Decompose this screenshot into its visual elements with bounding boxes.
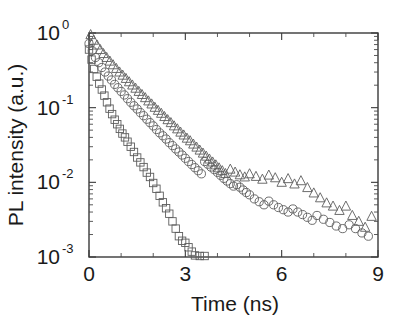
- data-point-circle: [152, 125, 160, 133]
- data-point-triangle: [208, 157, 217, 166]
- data-point-triangle: [121, 73, 130, 82]
- data-point-square: [114, 121, 121, 128]
- y-tick-label: 10-1: [37, 92, 74, 119]
- data-point-triangle: [264, 170, 273, 179]
- plot-canvas: 036910010-110-210-3 Time (ns) PL intensi…: [0, 0, 403, 320]
- data-point-triangle: [195, 145, 204, 154]
- svg-text:0: 0: [62, 17, 69, 32]
- y-axis-title: PL intensity (a.u.): [4, 64, 27, 227]
- data-point-square: [93, 73, 100, 80]
- data-point-triangle: [198, 148, 207, 157]
- data-point-circle: [303, 213, 311, 221]
- data-point-triangle: [328, 201, 337, 210]
- x-tick-label: 9: [372, 262, 384, 285]
- data-point-triangle: [141, 93, 150, 102]
- data-point-triangle: [251, 171, 260, 180]
- data-point-triangle: [192, 142, 201, 151]
- data-point-triangle: [169, 121, 178, 130]
- data-point-triangle: [147, 99, 156, 108]
- svg-text:10: 10: [37, 96, 60, 119]
- data-point-square: [133, 154, 140, 161]
- data-point-triangle: [211, 160, 220, 169]
- data-point-triangle: [124, 77, 133, 86]
- x-tick-label: 3: [179, 262, 191, 285]
- data-point-triangle: [160, 111, 169, 120]
- data-point-triangle: [86, 30, 95, 39]
- data-point-circle: [326, 218, 334, 226]
- data-point-triangle: [166, 118, 175, 127]
- svg-text:-1: -1: [62, 92, 74, 107]
- data-point-triangle: [153, 105, 162, 114]
- svg-text:10: 10: [37, 245, 60, 268]
- data-point-square: [137, 159, 144, 166]
- svg-text:10: 10: [37, 21, 60, 44]
- data-point-square: [124, 138, 131, 145]
- x-tick-label: 0: [83, 262, 95, 285]
- data-point-circle: [308, 216, 316, 224]
- series-triangles: [86, 30, 376, 232]
- data-point-triangle: [157, 108, 166, 117]
- data-point-triangle: [230, 167, 239, 176]
- pl-decay-figure: 036910010-110-210-3 Time (ns) PL intensi…: [0, 0, 403, 320]
- data-point-triangle: [296, 176, 305, 185]
- data-point-circle: [364, 232, 372, 240]
- data-point-triangle: [303, 183, 312, 192]
- y-tick-label: 100: [37, 17, 70, 44]
- data-point-square: [116, 125, 123, 132]
- data-point-square: [111, 116, 118, 123]
- data-point-triangle: [354, 216, 363, 225]
- svg-text:-2: -2: [62, 166, 74, 181]
- data-point-circle: [143, 115, 151, 123]
- data-point-triangle: [150, 102, 159, 111]
- data-point-triangle: [205, 154, 214, 163]
- data-series-group: [85, 30, 376, 260]
- data-point-square: [172, 225, 179, 232]
- data-point-circle: [294, 208, 302, 216]
- data-point-triangle: [134, 86, 143, 95]
- data-point-triangle: [214, 163, 223, 172]
- data-point-triangle: [189, 139, 198, 148]
- data-point-square: [169, 218, 176, 225]
- data-point-circle: [149, 122, 157, 130]
- x-axis-title: Time (ns): [191, 292, 279, 315]
- data-point-triangle: [348, 210, 357, 219]
- data-point-triangle: [118, 70, 127, 79]
- y-tick-label: 10-3: [37, 241, 74, 268]
- data-point-circle: [279, 206, 287, 214]
- data-point-triangle: [173, 124, 182, 133]
- data-point-square: [143, 169, 150, 176]
- data-point-circle: [162, 135, 170, 143]
- data-point-triangle: [341, 201, 350, 210]
- svg-text:10: 10: [37, 170, 60, 193]
- data-point-triangle: [137, 89, 146, 98]
- data-point-triangle: [176, 127, 185, 136]
- data-point-triangle: [283, 174, 292, 183]
- data-point-triangle: [128, 80, 137, 89]
- data-point-circle: [298, 210, 306, 218]
- data-point-square: [166, 210, 173, 217]
- data-point-square: [127, 143, 134, 150]
- data-point-circle: [181, 154, 189, 162]
- x-tick-label: 6: [276, 262, 288, 285]
- data-point-triangle: [179, 130, 188, 139]
- data-point-triangle: [144, 96, 153, 105]
- data-point-triangle: [131, 83, 140, 92]
- svg-text:-3: -3: [62, 241, 74, 256]
- axis-ticks: [89, 33, 378, 257]
- data-point-square: [130, 148, 137, 155]
- data-point-square: [201, 252, 208, 259]
- data-point-square: [140, 163, 147, 170]
- data-point-triangle: [115, 67, 124, 76]
- data-point-circle: [319, 215, 327, 223]
- data-point-square: [196, 252, 203, 259]
- data-point-triangle: [367, 211, 376, 220]
- data-point-square: [108, 110, 115, 117]
- axes-frame: [89, 33, 378, 257]
- data-point-triangle: [202, 151, 211, 160]
- data-point-circle: [274, 203, 282, 211]
- data-point-triangle: [182, 133, 191, 142]
- data-point-square: [153, 185, 160, 192]
- data-point-circle: [146, 119, 154, 127]
- data-point-triangle: [163, 115, 172, 124]
- data-point-triangle: [271, 173, 280, 182]
